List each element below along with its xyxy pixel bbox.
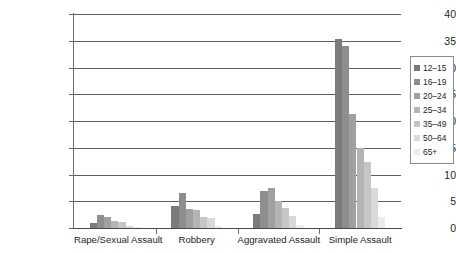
bar — [118, 222, 125, 228]
legend-label: 65+ — [423, 148, 437, 157]
bar — [253, 214, 260, 228]
x-category-label: Rape/Sexual Assault — [74, 234, 156, 246]
legend-swatch-icon — [414, 79, 420, 85]
bar-group — [171, 14, 222, 228]
legend-item[interactable]: 65+ — [414, 145, 451, 159]
legend-label: 12–15 — [423, 64, 446, 73]
y-tick-label: 40 — [394, 9, 456, 19]
bar-chart: 0510152025303540 Rape/Sexual AssaultRobb… — [0, 0, 456, 253]
legend-swatch-icon — [414, 135, 420, 141]
bar — [207, 218, 214, 228]
bar — [126, 226, 133, 228]
y-tick-label: 5 — [394, 196, 456, 206]
legend-item[interactable]: 20–24 — [414, 89, 451, 103]
legend-item[interactable]: 25–34 — [414, 103, 451, 117]
bar — [200, 217, 207, 228]
x-category-label: Simple Assault — [319, 234, 401, 246]
bar — [296, 225, 303, 228]
bar — [364, 162, 371, 228]
legend-label: 20–24 — [423, 92, 446, 101]
bar — [90, 223, 97, 228]
legend-swatch-icon — [414, 149, 420, 155]
bar — [186, 209, 193, 228]
chart-legend: 12–1516–1920–2425–3435–4950–6465+ — [410, 56, 454, 164]
bar — [104, 217, 111, 228]
bar — [357, 148, 364, 228]
y-tick-label: 35 — [394, 36, 456, 46]
bar — [371, 188, 378, 228]
bar — [111, 221, 118, 228]
bar — [289, 216, 296, 228]
bar — [268, 188, 275, 228]
legend-label: 50–64 — [423, 134, 446, 143]
legend-label: 25–34 — [423, 106, 446, 115]
legend-swatch-icon — [414, 93, 420, 99]
x-category-label: Aggravated Assault — [238, 234, 320, 246]
bar — [275, 201, 282, 228]
bar — [97, 215, 104, 228]
y-tick-label: 0 — [394, 223, 456, 233]
plot-area — [74, 14, 401, 228]
bar — [378, 217, 385, 228]
bar — [282, 208, 289, 228]
y-tick-label: 10 — [394, 170, 456, 180]
legend-item[interactable]: 35–49 — [414, 117, 451, 131]
x-category-label: Robbery — [156, 234, 238, 246]
bar — [342, 46, 349, 228]
bar — [260, 191, 267, 228]
legend-label: 16–19 — [423, 78, 446, 87]
bar — [193, 210, 200, 228]
legend-item[interactable]: 16–19 — [414, 75, 451, 89]
bar-group — [253, 14, 304, 228]
legend-swatch-icon — [414, 65, 420, 71]
legend-item[interactable]: 50–64 — [414, 131, 451, 145]
bar — [171, 206, 178, 228]
legend-label: 35–49 — [423, 120, 446, 129]
legend-swatch-icon — [414, 121, 420, 127]
legend-swatch-icon — [414, 107, 420, 113]
legend-item[interactable]: 12–15 — [414, 61, 451, 75]
bar-group — [90, 14, 141, 228]
bar — [215, 226, 222, 228]
bar — [349, 114, 356, 228]
bar — [179, 193, 186, 228]
bar — [335, 39, 342, 228]
bar — [133, 227, 140, 228]
bar-group — [335, 14, 386, 228]
